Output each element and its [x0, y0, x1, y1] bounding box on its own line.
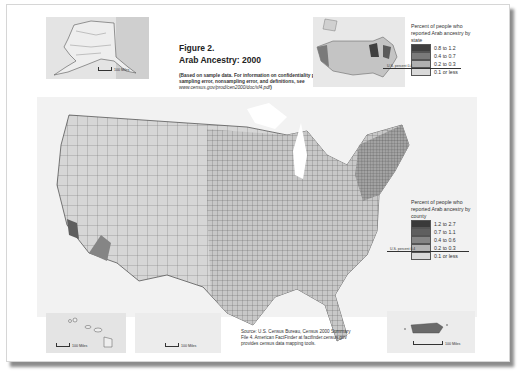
county-us-percent-label: U.S. percent 0.4 [390, 247, 415, 251]
puerto-rico-inset: 100 Miles [387, 311, 475, 353]
legend-class: 0.4 to 0.6 [411, 236, 481, 244]
puerto-rico-scale: 100 Miles [413, 341, 460, 346]
lower-inset: 100 Miles [135, 313, 221, 353]
hawaii-inset: 100 Miles [46, 313, 126, 353]
county-us-percent-line [387, 251, 469, 252]
source-note: Source: U.S. Census Bureau, Census 2000 … [241, 329, 351, 347]
legend-class: 0.7 to 1.1 [411, 228, 481, 236]
county-map [7, 5, 509, 361]
county-legend-title: Percent of people who reported Arab ance… [411, 199, 481, 220]
legend-class: 0.1 or less [411, 252, 481, 260]
figure-page: 100 Miles Figure 2. Arab Ancestry: 2000 … [6, 4, 510, 362]
legend-class: 1.2 to 2.7 [411, 220, 481, 228]
puerto-rico-map-icon [387, 311, 475, 353]
county-legend-classes: 1.2 to 2.7 0.7 to 1.1 0.4 to 0.6 0.2 to … [411, 220, 481, 260]
lower-inset-scale: 100 Miles [165, 343, 196, 348]
hawaii-scale: 100 Miles [56, 343, 87, 348]
